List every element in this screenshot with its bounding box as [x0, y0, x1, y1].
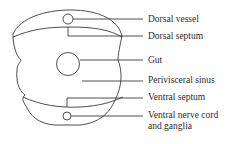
ventral-nerve-cord-circle: [63, 112, 71, 120]
label-ventral-septum: Ventral septum: [148, 92, 205, 103]
dorsal-septum-line: [13, 27, 122, 37]
label-dorsal-septum: Dorsal septum: [148, 31, 203, 42]
cross-section-diagram: [0, 0, 241, 144]
label-perivisceral-sinus: Perivisceral sinus: [148, 75, 215, 86]
label-ventral-nerve-cord: Ventral nerve cord: [148, 110, 218, 121]
leader-ventral-septum: [67, 98, 143, 107]
label-dorsal-vessel: Dorsal vessel: [148, 14, 199, 25]
label-ventral-nerve-cord-line2: and ganglia: [148, 121, 192, 132]
leader-dorsal-septum: [68, 27, 143, 36]
label-gut: Gut: [148, 55, 162, 66]
ventral-septum-line: [23, 97, 123, 107]
dorsal-vessel-circle: [63, 14, 73, 24]
gut-circle: [57, 53, 80, 76]
